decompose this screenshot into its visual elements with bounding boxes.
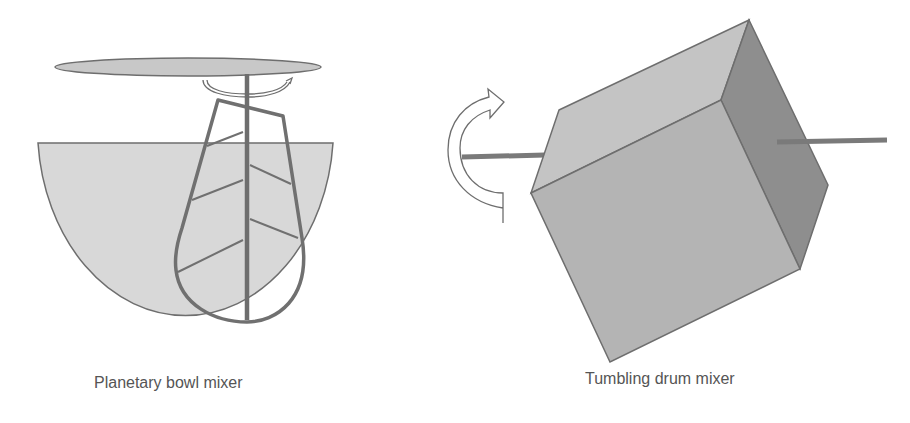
planetary-bowl-mixer-caption: Planetary bowl mixer <box>94 374 243 392</box>
right-axle <box>777 140 887 142</box>
bowl <box>38 143 333 316</box>
planetary-bowl-mixer <box>38 58 333 322</box>
tumbling-drum-mixer-caption: Tumbling drum mixer <box>585 370 735 388</box>
tumbling-drum-mixer <box>448 20 887 362</box>
left-axle <box>462 155 545 157</box>
mixer-diagram <box>0 0 910 423</box>
top-disc <box>55 58 321 76</box>
